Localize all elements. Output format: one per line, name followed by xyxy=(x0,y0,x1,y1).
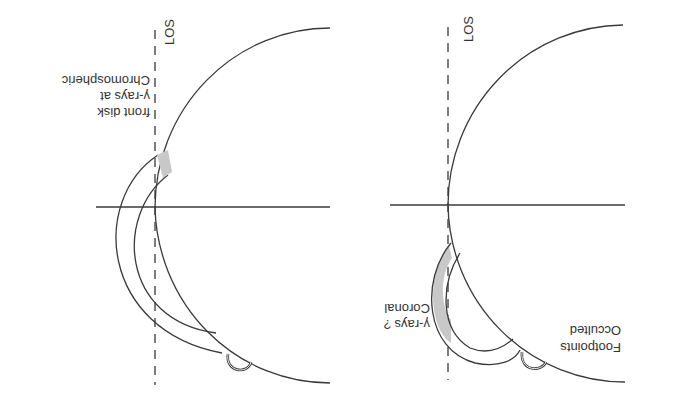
occulted-label-line2: Footpoints xyxy=(560,340,621,355)
chromospheric-label-line2: γ-rays at xyxy=(100,89,150,104)
occulted-label-line1: Occulted xyxy=(570,323,621,338)
chromospheric-label-line3: front disk xyxy=(97,105,150,120)
footpoint-shade-left xyxy=(157,150,172,178)
loop-inner-left xyxy=(134,175,216,333)
solar-limb-left xyxy=(155,28,330,383)
los-label-right: LOS xyxy=(461,16,476,42)
coronal-label-line2: γ-rays ? xyxy=(384,317,430,332)
diagram-canvas: LOS Chromospheric γ-rays at front disk L… xyxy=(0,0,682,417)
chromospheric-label-line1: Chromospheric xyxy=(61,73,150,88)
coronal-shade-right xyxy=(433,246,452,343)
loop-inner-right xyxy=(446,253,513,351)
coronal-label-line1: Coronal xyxy=(384,301,430,316)
loop-outer-left xyxy=(116,155,222,353)
los-label-left: LOS xyxy=(162,19,177,45)
